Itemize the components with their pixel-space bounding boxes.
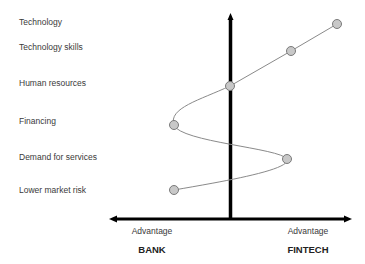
factor-marker: [170, 186, 179, 195]
factor-marker: [283, 155, 292, 164]
right-advantage-label: Advantage: [268, 226, 348, 236]
right-arrow-icon: [344, 216, 352, 223]
diagram-canvas: [0, 0, 365, 264]
comparison-curve: [173, 24, 337, 190]
left-advantage-label: Advantage: [112, 226, 192, 236]
factor-label: Lower market risk: [19, 185, 86, 195]
vertical-axis-arrow-icon: [228, 13, 234, 20]
factor-marker: [170, 121, 179, 130]
factor-label: Technology: [19, 17, 62, 27]
factor-label: Technology skills: [19, 42, 83, 52]
factor-label: Financing: [19, 116, 56, 126]
left-arrow-icon: [109, 216, 117, 223]
factor-marker: [287, 47, 296, 56]
markers: [170, 20, 342, 195]
factor-marker: [226, 82, 235, 91]
bank-label: BANK: [112, 244, 192, 255]
factor-label: Human resources: [19, 78, 86, 88]
factor-label: Demand for services: [19, 152, 97, 162]
factor-marker: [333, 20, 342, 29]
fintech-label: FINTECH: [268, 244, 348, 255]
